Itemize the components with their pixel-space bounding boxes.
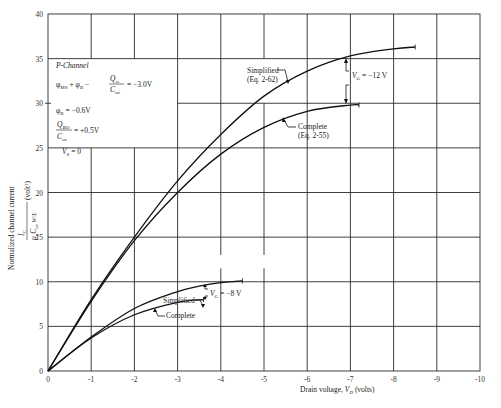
x-tick-label: -4 [218, 375, 224, 384]
svg-text:IC: IC [17, 230, 27, 238]
legend-eq1-den: Cox [110, 85, 121, 95]
label-complete-12: Complete [298, 122, 328, 131]
x-tick-label: -6 [304, 375, 310, 384]
x-tick-label: -2 [131, 375, 137, 384]
x-tick-label: 0 [46, 375, 50, 384]
legend-eq3-den: Cox [57, 132, 68, 142]
y-tick-label: 40 [36, 10, 44, 19]
x-tick-label: -1 [88, 375, 94, 384]
legend-eq4: VS = 0 [62, 147, 81, 157]
label-simplified-12-eq: (Eq. 2-62) [247, 75, 278, 84]
channel-current-chart: 0-1-2-3-4-5-6-7-8-9-100510152025303540 P… [0, 0, 501, 408]
series-curve-1 [48, 105, 359, 371]
label-complete-8: Complete [166, 311, 196, 320]
x-tick-label: -8 [390, 375, 396, 384]
x-tick-label: -9 [434, 375, 440, 384]
legend-eq1: φMS + φB − [56, 80, 89, 90]
y-tick-label: 5 [39, 322, 43, 331]
y-tick-label: 0 [39, 367, 43, 376]
svg-text:(volt²): (volt²) [23, 181, 32, 200]
y-tick-label: 25 [36, 144, 44, 153]
y-tick-label: 10 [36, 278, 44, 287]
legend-eq3-value: = +0.5V [74, 126, 100, 135]
label-simplified-8: Simplified [163, 296, 195, 305]
y-axis-label: Normalized channel current [7, 185, 16, 270]
x-tick-label: -3 [174, 375, 180, 384]
legend-eq2: φB = −0.6V [56, 106, 91, 116]
label-simplified-12: Simplified [247, 66, 279, 75]
x-tick-label: -5 [261, 375, 267, 384]
series-curve-0 [48, 47, 415, 371]
x-axis-label: Drain voltage, VD (volts) [300, 385, 375, 395]
y-tick-label: 35 [36, 55, 44, 64]
x-tick-label: -7 [347, 375, 353, 384]
y-tick-label: 30 [36, 99, 44, 108]
legend-eq1-value: = −3.0V [127, 80, 153, 89]
label-vg-8: VG = −8 V [210, 289, 242, 299]
legend-title: P-Channel [55, 61, 89, 70]
parameter-legend: P-Channel φMS + φB − Qss Cox = −3.0V φB … [55, 61, 153, 157]
y-tick-label: 20 [36, 189, 44, 198]
curves [48, 45, 415, 371]
label-complete-12-eq: (Eq. 2-55) [298, 131, 329, 140]
svg-text:Normalized channel current: Normalized channel current [7, 185, 16, 270]
legend-eq1-num: Qss [110, 74, 119, 84]
curve-annotations: Simplified (Eq. 2-62) Complete (Eq. 2-55… [153, 58, 388, 320]
legend-eq3-num: QBO [57, 120, 69, 130]
x-tick-label: -10 [475, 375, 485, 384]
svg-text:μpCox W/L: μpCox W/L [29, 212, 39, 240]
label-vg-12: VG = −12 V [352, 71, 388, 81]
